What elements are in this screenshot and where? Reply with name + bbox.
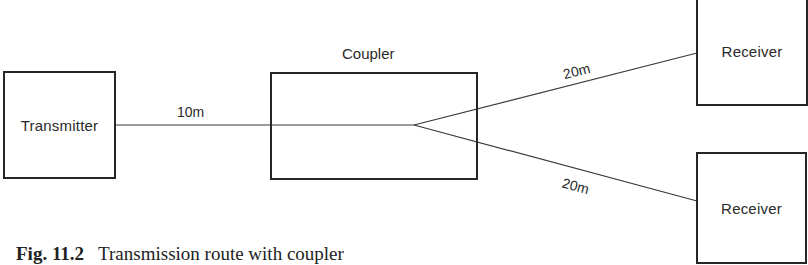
receiver-top-box: Receiver	[696, 0, 808, 106]
transmitter-label: Transmitter	[21, 117, 99, 134]
receiver-bottom-label: Receiver	[721, 200, 782, 217]
figure-number: Fig. 11.2	[16, 243, 84, 264]
figure-caption: Fig. 11.2Transmission route with coupler	[16, 243, 344, 265]
transmitter-box: Transmitter	[3, 71, 116, 179]
receiver-top-label: Receiver	[722, 43, 783, 60]
coupler-box	[270, 72, 478, 180]
receiver-bottom-box: Receiver	[696, 152, 807, 264]
distance-label-10m: 10m	[177, 104, 204, 120]
coupler-label: Coupler	[342, 45, 395, 62]
caption-text: Transmission route with coupler	[98, 243, 344, 264]
